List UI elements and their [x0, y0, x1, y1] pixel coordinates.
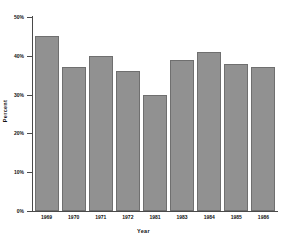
bar	[170, 60, 194, 211]
x-axis-tick-label: 1986	[250, 214, 277, 220]
x-axis-tick-label: 1983	[169, 214, 196, 220]
bar-chart: Percent 0%10%20%30%40%50% 19691970197119…	[0, 0, 287, 242]
bar	[143, 95, 167, 211]
bar	[89, 56, 113, 211]
bars-layer	[0, 0, 287, 242]
x-axis-tick-label: 1970	[60, 214, 87, 220]
bar	[251, 67, 275, 211]
x-axis-tick-label: 1972	[114, 214, 141, 220]
x-axis-tick-label: 1984	[196, 214, 223, 220]
bar	[116, 71, 140, 211]
bar	[35, 36, 59, 211]
x-axis-tick-label: 1981	[141, 214, 168, 220]
bar	[224, 64, 248, 211]
x-axis-title: Year	[0, 228, 287, 234]
x-axis-tick-label: 1969	[33, 214, 60, 220]
x-axis-tick-label: 1985	[223, 214, 250, 220]
bar	[62, 67, 86, 211]
bar	[197, 52, 221, 211]
x-axis-tick-label: 1971	[87, 214, 114, 220]
